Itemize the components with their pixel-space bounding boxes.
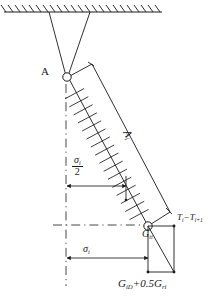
label-sigma-half: σi 2: [72, 155, 83, 178]
label-weight-point: Gti: [142, 229, 153, 240]
label-tension-difference: Ti−Ti+1: [177, 213, 203, 223]
member-outline: [68, 64, 170, 226]
ceiling-hatching: [1, 5, 160, 12]
label-sigma-i: σi: [83, 244, 90, 255]
dimension-sigma-half: [67, 176, 126, 200]
label-gravity-load: GiD+0.5Gri: [118, 278, 166, 291]
ceiling-support: [1, 5, 162, 12]
suspension-cables: [49, 12, 90, 76]
cable-left: [49, 12, 66, 76]
figure-root: A Ai σi 2 σi Gti Ti−Ti+1 GiD+0.5Gri: [0, 0, 212, 297]
hinge-top: [63, 73, 71, 81]
member-spine: [68, 77, 148, 226]
label-hinge-a: A: [41, 66, 49, 77]
diagram-canvas: [0, 0, 212, 297]
